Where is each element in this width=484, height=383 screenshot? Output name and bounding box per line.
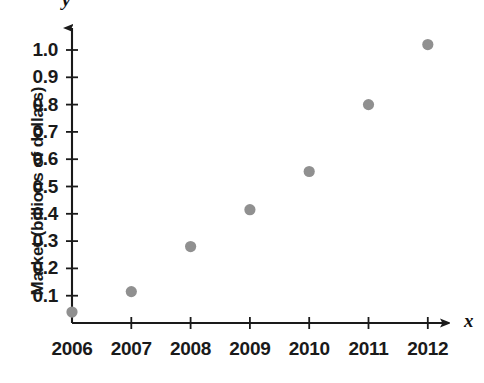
y-tick-label: 0.2 — [10, 258, 58, 277]
y-tick-label: 1.0 — [10, 40, 58, 59]
y-tick-label: 0.9 — [10, 67, 58, 86]
plot-area — [0, 0, 484, 383]
y-tick-label: 0.8 — [10, 95, 58, 114]
y-tick-label: 0.1 — [10, 286, 58, 305]
data-points — [66, 39, 433, 318]
scatter-plot-figure: Market (billions of dollars) y x 0.10.20… — [0, 0, 484, 383]
data-point — [422, 39, 433, 50]
data-point — [244, 204, 255, 215]
y-tick-label: 0.3 — [10, 231, 58, 250]
x-axis-symbol-label: x — [464, 310, 474, 332]
y-axis-symbol-label: y — [62, 0, 70, 11]
x-tick-label: 2012 — [393, 339, 463, 358]
y-tick-label: 0.6 — [10, 149, 58, 168]
axes — [72, 28, 449, 323]
data-point — [304, 166, 315, 177]
y-tick-label: 0.7 — [10, 122, 58, 141]
data-point — [126, 286, 137, 297]
data-point — [363, 99, 374, 110]
y-tick-label: 0.5 — [10, 177, 58, 196]
y-tick-label: 0.4 — [10, 204, 58, 223]
data-point — [66, 306, 77, 317]
data-point — [185, 241, 196, 252]
